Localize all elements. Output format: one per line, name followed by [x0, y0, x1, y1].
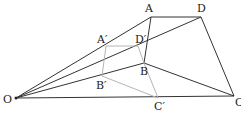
- label-B: B: [140, 65, 148, 78]
- center-point-O: [15, 97, 18, 100]
- ray-O-D: [16, 17, 201, 98]
- label-D-prime: D′: [135, 33, 147, 46]
- ray-O-C: [16, 96, 234, 98]
- label-C-prime: C′: [154, 100, 165, 113]
- homothety-diagram: O A D B C A′ D′ B′ C′: [0, 0, 241, 113]
- edge-C1-B1: [102, 76, 158, 98]
- edge-D-C: [201, 17, 234, 96]
- edge-B1-A1: [102, 46, 106, 76]
- label-A: A: [144, 2, 154, 15]
- label-O: O: [3, 93, 12, 106]
- label-D: D: [197, 2, 206, 15]
- label-A-prime: A′: [96, 33, 108, 46]
- label-B-prime: B′: [96, 79, 107, 92]
- edge-C-B: [144, 63, 234, 96]
- label-C: C: [235, 96, 241, 109]
- dark-lines: [16, 17, 234, 98]
- ray-O-B: [16, 63, 144, 98]
- ray-O-A: [16, 17, 151, 98]
- edge-D1-C1: [138, 46, 144, 63]
